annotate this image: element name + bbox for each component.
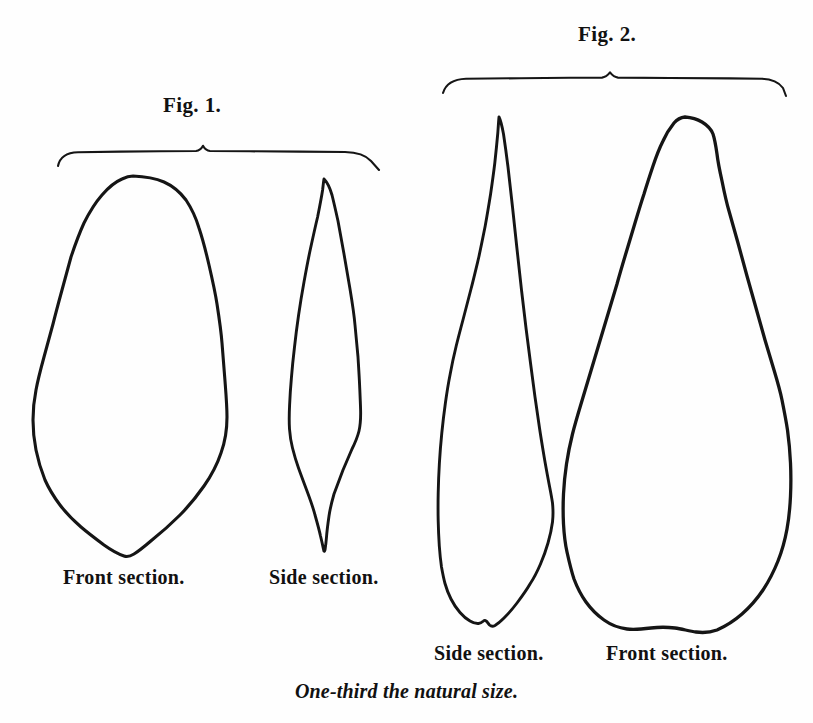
fig-2-side-section-outline <box>438 117 553 626</box>
fig-2-side-section-label: Side section. <box>434 642 543 665</box>
fig-1-front-section-outline <box>33 176 227 556</box>
fig-2-brace <box>443 72 786 96</box>
fig-1-label: Fig. 1. <box>163 93 221 118</box>
plate-drawing-surface <box>0 0 813 723</box>
fig-1-brace <box>58 146 379 170</box>
fig-1-side-section-label: Side section. <box>269 566 378 589</box>
fig-1-front-section-label: Front section. <box>63 566 185 589</box>
fig-2-front-section-label: Front section. <box>606 642 728 665</box>
fig-2-front-section-outline <box>563 117 791 632</box>
illustration-plate: Fig. 1. Fig. 2. Front section. Side sect… <box>0 0 813 723</box>
fig-2-label: Fig. 2. <box>578 22 636 47</box>
scale-caption: One-third the natural size. <box>0 680 813 703</box>
fig-1-side-section-outline <box>289 179 360 551</box>
